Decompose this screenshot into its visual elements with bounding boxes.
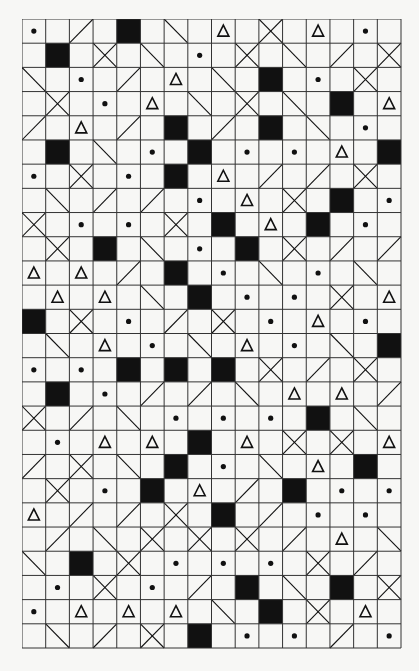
- grid-cell: [235, 140, 259, 164]
- grid-cell: [283, 406, 307, 430]
- grid-cell: [22, 430, 46, 454]
- grid-cell: [22, 382, 46, 406]
- grid-cell: [140, 503, 164, 527]
- grid-cell: [93, 406, 117, 430]
- grid-cell: [354, 527, 378, 551]
- grid-cell: [93, 19, 117, 43]
- grid-cell: [140, 19, 164, 43]
- grid-cell: [93, 575, 117, 599]
- dot-icon: [173, 416, 178, 421]
- grid-cell: [354, 67, 378, 91]
- grid-cell: [69, 334, 93, 358]
- dot-icon: [79, 222, 84, 227]
- grid-cell: [46, 43, 70, 67]
- grid-cell: [46, 309, 70, 333]
- grid-cell: [259, 454, 283, 478]
- grid-cell: [69, 261, 93, 285]
- grid-cell: [306, 92, 330, 116]
- grid-cell: [235, 213, 259, 237]
- grid-cell: [164, 188, 188, 212]
- dot-icon: [150, 585, 155, 590]
- grid-cell: [212, 358, 236, 382]
- grid-cell: [22, 261, 46, 285]
- grid-cell: [354, 213, 378, 237]
- grid-cell: [188, 454, 212, 478]
- grid-cell: [259, 358, 283, 382]
- grid-cell: [93, 116, 117, 140]
- grid-cell: [164, 261, 188, 285]
- grid-cell: [69, 575, 93, 599]
- grid-cell: [140, 116, 164, 140]
- grid-cell: [259, 382, 283, 406]
- grid-cell: [93, 67, 117, 91]
- dot-icon: [387, 488, 392, 493]
- grid-cell: [306, 551, 330, 575]
- grid-cell: [354, 19, 378, 43]
- grid-cell: [377, 285, 401, 309]
- grid-cell: [164, 624, 188, 648]
- grid-cell: [140, 309, 164, 333]
- grid-cell: [117, 624, 141, 648]
- grid-cell: [164, 285, 188, 309]
- grid-cell: [283, 527, 307, 551]
- grid-cell: [69, 358, 93, 382]
- grid-cell: [69, 454, 93, 478]
- dot-icon: [173, 561, 178, 566]
- grid-cell: [22, 406, 46, 430]
- grid-cell: [235, 261, 259, 285]
- grid-cell: [235, 503, 259, 527]
- grid-cell: [188, 261, 212, 285]
- grid-cell: [212, 479, 236, 503]
- grid-cell: [306, 527, 330, 551]
- grid-cell: [188, 551, 212, 575]
- grid-cell: [283, 92, 307, 116]
- grid-cell: [164, 164, 188, 188]
- grid-cell: [117, 188, 141, 212]
- grid-cell: [69, 551, 93, 575]
- grid-cell: [212, 43, 236, 67]
- grid-cell: [377, 43, 401, 67]
- grid-cell: [235, 575, 259, 599]
- grid-cell: [140, 334, 164, 358]
- grid-cell: [188, 164, 212, 188]
- grid-cell: [93, 334, 117, 358]
- grid-cell: [46, 334, 70, 358]
- dot-icon: [126, 319, 131, 324]
- grid-cell: [69, 527, 93, 551]
- grid-cell: [306, 624, 330, 648]
- grid-cell: [283, 479, 307, 503]
- grid-cell: [354, 92, 378, 116]
- dot-icon: [339, 488, 344, 493]
- grid-cell: [235, 600, 259, 624]
- dot-icon: [197, 53, 202, 58]
- grid-cell: [140, 261, 164, 285]
- grid-cell: [330, 188, 354, 212]
- grid-cell: [283, 19, 307, 43]
- grid-cell: [164, 19, 188, 43]
- grid-cell: [235, 43, 259, 67]
- grid-cell: [22, 116, 46, 140]
- grid-cell: [22, 503, 46, 527]
- grid-cell: [259, 503, 283, 527]
- grid-cell: [164, 551, 188, 575]
- grid-cell: [188, 188, 212, 212]
- grid-cell: [306, 406, 330, 430]
- grid-cell: [354, 116, 378, 140]
- grid-cell: [283, 551, 307, 575]
- grid-cell: [117, 309, 141, 333]
- grid-cell: [354, 600, 378, 624]
- grid-cell: [46, 600, 70, 624]
- grid-cell: [212, 188, 236, 212]
- grid-cell: [377, 92, 401, 116]
- grid-cell: [306, 575, 330, 599]
- grid-cell: [354, 285, 378, 309]
- grid-cell: [93, 213, 117, 237]
- grid-cell: [306, 382, 330, 406]
- grid-cell: [235, 237, 259, 261]
- grid-cell: [69, 140, 93, 164]
- grid-cell: [212, 67, 236, 91]
- grid-cell: [69, 382, 93, 406]
- grid-cell: [93, 188, 117, 212]
- grid-cell: [212, 116, 236, 140]
- grid-cell: [69, 92, 93, 116]
